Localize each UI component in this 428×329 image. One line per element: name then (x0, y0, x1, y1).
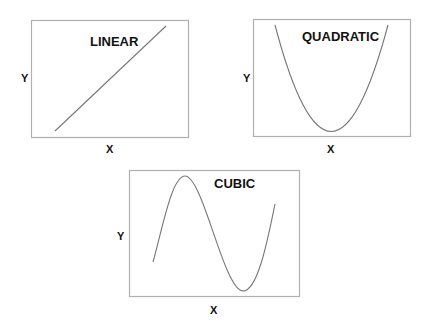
cubic-y-label: Y (117, 230, 125, 242)
curve-types-diagram: LINEAR Y X QUADRATIC Y X CUBIC Y X (0, 0, 428, 329)
quadratic-y-label: Y (243, 72, 251, 84)
cubic-curve (153, 176, 275, 291)
quadratic-panel: QUADRATIC Y X (243, 20, 411, 156)
quadratic-title: QUADRATIC (302, 29, 380, 44)
cubic-title: CUBIC (214, 176, 256, 191)
linear-panel: LINEAR Y X (21, 21, 189, 156)
cubic-panel: CUBIC Y X (117, 171, 300, 317)
cubic-x-label: X (210, 304, 218, 316)
quadratic-x-label: X (327, 143, 335, 155)
linear-x-label: X (106, 143, 114, 155)
linear-title: LINEAR (90, 34, 139, 49)
linear-y-label: Y (21, 72, 29, 84)
